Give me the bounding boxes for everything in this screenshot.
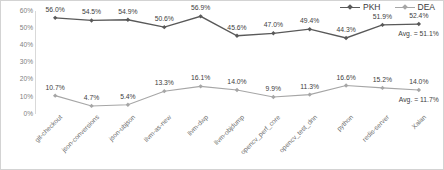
data-point-marker bbox=[417, 88, 421, 92]
data-point-marker bbox=[271, 95, 275, 99]
y-axis-tick: 40% bbox=[7, 42, 33, 49]
data-point-label: 14.0% bbox=[227, 79, 246, 86]
data-point-label: 56.0% bbox=[46, 7, 65, 14]
data-point-marker bbox=[235, 88, 239, 92]
data-point-marker bbox=[162, 89, 166, 93]
data-point-marker bbox=[380, 86, 384, 90]
data-point-marker bbox=[126, 18, 130, 22]
x-axis-tick: json-ubjson bbox=[108, 114, 137, 143]
data-point-marker bbox=[162, 25, 166, 29]
data-point-label: 44.3% bbox=[336, 27, 355, 34]
plot-area: 56.0%54.5%54.9%50.6%56.9%45.6%47.0%49.4%… bbox=[37, 11, 437, 114]
legend-diamond-icon-pkh bbox=[347, 4, 353, 10]
data-point-label: 11.3% bbox=[300, 84, 319, 91]
x-axis-tick: json-conversions bbox=[61, 114, 101, 154]
data-point-label: 50.6% bbox=[155, 16, 174, 23]
x-axis-tick: llvm-objdump bbox=[213, 114, 245, 146]
data-point-marker bbox=[53, 93, 57, 97]
chart-figure: PKH DEA 60%50%40%30%20%10%0% 56.0%54.5%5… bbox=[0, 0, 444, 170]
y-axis-tick: 30% bbox=[7, 59, 33, 66]
data-point-label: 47.0% bbox=[264, 22, 283, 29]
data-point-marker bbox=[89, 104, 93, 108]
y-axis-tick: 60% bbox=[7, 8, 33, 15]
y-axis-tick: 0% bbox=[7, 111, 33, 118]
data-point-marker bbox=[271, 31, 275, 35]
data-point-marker bbox=[198, 84, 202, 88]
data-point-marker bbox=[417, 22, 421, 26]
average-annotation-dea: Avg. = 11.7% bbox=[399, 97, 439, 104]
data-point-label: 16.1% bbox=[191, 75, 210, 82]
data-point-marker bbox=[126, 103, 130, 107]
y-axis-tick: 20% bbox=[7, 76, 33, 83]
average-annotation-pkh: Avg. = 51.1% bbox=[398, 31, 439, 38]
data-point-label: 16.6% bbox=[336, 75, 355, 82]
data-point-label: 56.9% bbox=[191, 5, 210, 12]
y-axis-tick: 10% bbox=[7, 94, 33, 101]
data-point-label: 14.0% bbox=[409, 79, 428, 86]
data-point-marker bbox=[380, 23, 384, 27]
data-point-label: 54.9% bbox=[118, 9, 137, 16]
x-axis-tick: llvm-as-new bbox=[143, 114, 173, 144]
y-axis-labels: 60%50%40%30%20%10%0% bbox=[5, 1, 33, 170]
data-point-label: 5.4% bbox=[120, 94, 136, 101]
x-axis-tick: python bbox=[336, 114, 355, 133]
data-point-label: 54.5% bbox=[82, 9, 101, 16]
data-point-marker bbox=[344, 36, 348, 40]
data-point-label: 52.4% bbox=[409, 13, 428, 20]
data-point-label: 4.7% bbox=[84, 95, 100, 102]
data-point-marker bbox=[89, 18, 93, 22]
x-axis-tick: redis-server bbox=[362, 114, 391, 143]
data-point-label: 49.4% bbox=[300, 18, 319, 25]
x-axis-tick: llvm-dwp bbox=[186, 114, 209, 137]
x-axis-tick: git-checkout bbox=[34, 114, 64, 144]
x-axis-tick: opencv_perf_core bbox=[240, 114, 282, 156]
legend-diamond-icon-dea bbox=[402, 4, 408, 10]
y-axis-tick: 50% bbox=[7, 25, 33, 32]
x-axis-labels: git-checkoutjson-conversionsjson-ubjsonl… bbox=[37, 114, 437, 170]
data-point-marker bbox=[308, 92, 312, 96]
x-axis-tick: opencv_test_dnn bbox=[278, 114, 318, 154]
data-point-label: 15.2% bbox=[373, 77, 392, 84]
data-point-label: 10.7% bbox=[46, 85, 65, 92]
y-axis-line bbox=[35, 11, 36, 114]
data-point-marker bbox=[53, 16, 57, 20]
data-point-marker bbox=[308, 27, 312, 31]
data-point-label: 51.9% bbox=[373, 14, 392, 21]
x-axis-tick: Xalan bbox=[411, 114, 428, 131]
data-point-marker bbox=[344, 83, 348, 87]
data-point-label: 45.6% bbox=[227, 25, 246, 32]
data-point-label: 13.3% bbox=[155, 80, 174, 87]
data-point-label: 9.9% bbox=[266, 86, 282, 93]
